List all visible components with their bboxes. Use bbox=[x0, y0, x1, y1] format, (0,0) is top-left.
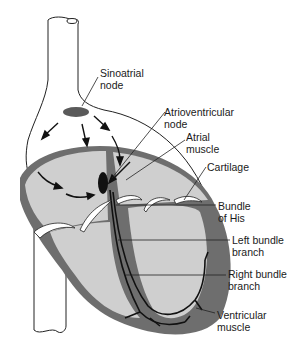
label-ventricular-muscle: Ventricular muscle bbox=[217, 309, 267, 333]
label-line: node bbox=[100, 79, 144, 91]
atrioventricular-node bbox=[98, 172, 108, 194]
label-atrial-muscle: Atrial muscle bbox=[186, 131, 219, 155]
label-line: of His bbox=[218, 212, 251, 224]
label-line: muscle bbox=[186, 143, 219, 155]
label-line: Atrial bbox=[186, 131, 219, 143]
label-atrioventricular-node: Atrioventricular node bbox=[164, 106, 234, 130]
label-line: node bbox=[164, 118, 234, 130]
label-cartilage: Cartilage bbox=[207, 161, 249, 173]
label-line: Left bundle bbox=[232, 234, 284, 246]
sinoatrial-node bbox=[63, 107, 89, 117]
label-line: branch bbox=[228, 280, 287, 292]
label-bundle-of-his: Bundle of His bbox=[218, 200, 251, 224]
label-line: Ventricular bbox=[217, 309, 267, 321]
label-line: Sinoatrial bbox=[100, 67, 144, 79]
label-line: muscle bbox=[217, 321, 267, 333]
label-line: Bundle bbox=[218, 200, 251, 212]
label-line: Cartilage bbox=[207, 161, 249, 173]
label-line: branch bbox=[232, 246, 284, 258]
label-line: Atrioventricular bbox=[164, 106, 234, 118]
heart-conduction-diagram bbox=[0, 0, 299, 349]
label-sinoatrial-node: Sinoatrial node bbox=[100, 67, 144, 91]
label-right-bundle-branch: Right bundle branch bbox=[228, 268, 287, 292]
label-line: Right bundle bbox=[228, 268, 287, 280]
label-left-bundle-branch: Left bundle branch bbox=[232, 234, 284, 258]
